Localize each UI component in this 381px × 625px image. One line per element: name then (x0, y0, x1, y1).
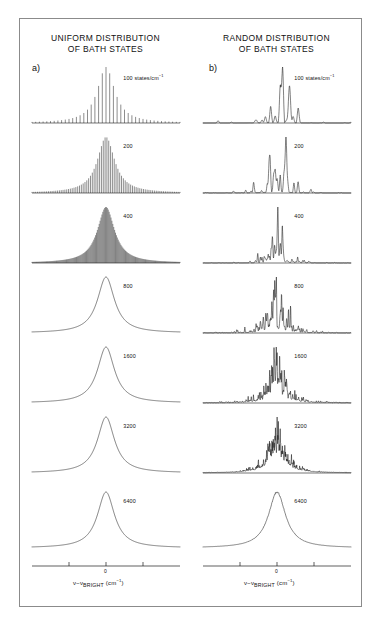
density-label: 800 (123, 283, 132, 289)
axis-caption-unit: (cm (277, 580, 288, 586)
figure-column-uniform: UNIFORM DISTRIBUTION OF BATH STATES a) 1… (20, 19, 191, 606)
axis-caption-sub: BRIGHT (83, 582, 104, 588)
figure-column-random: RANDOM DISTRIBUTION OF BATH STATES b) 10… (191, 19, 362, 606)
density-value: 6400 (123, 498, 136, 504)
axis-caption-uniform: ν−νBRIGHT (cm−1) (73, 578, 124, 588)
density-value: 400 (123, 213, 132, 219)
density-value: 400 (294, 213, 303, 219)
axis-caption-unit-close: ) (122, 580, 124, 586)
density-units: states/cm (133, 75, 159, 81)
axis-caption-unit-close: ) (293, 580, 295, 586)
density-value: 800 (123, 283, 132, 289)
density-label: 200 (123, 143, 132, 149)
axis-caption-sub: BRIGHT (254, 582, 275, 588)
plot-stack-uniform (20, 19, 191, 608)
density-value: 800 (294, 283, 303, 289)
spectra-svg-random (191, 19, 362, 608)
density-label: 6400 (294, 498, 307, 504)
density-label: 100 states/cm−1 (123, 73, 163, 81)
density-label: 400 (123, 213, 132, 219)
density-label: 6400 (123, 498, 136, 504)
density-label: 800 (294, 283, 303, 289)
density-label: 100 states/cm−1 (294, 73, 334, 81)
spectra-svg-uniform (20, 19, 191, 608)
density-label: 1600 (123, 353, 136, 359)
density-value: 100 (294, 75, 303, 81)
density-value: 200 (123, 143, 132, 149)
plot-stack-random (191, 19, 362, 608)
density-value: 1600 (123, 353, 136, 359)
density-value: 100 (123, 75, 132, 81)
density-value: 6400 (294, 498, 307, 504)
density-units-exponent: −1 (330, 73, 335, 78)
density-label: 400 (294, 213, 303, 219)
axis-caption-main: ν−ν (244, 580, 254, 586)
figure-frame: UNIFORM DISTRIBUTION OF BATH STATES a) 1… (19, 18, 362, 607)
density-value: 200 (294, 143, 303, 149)
density-label: 3200 (294, 423, 307, 429)
density-value: 1600 (294, 353, 307, 359)
axis-caption-unit: (cm (106, 580, 117, 586)
density-label: 1600 (294, 353, 307, 359)
axis-caption-main: ν−ν (73, 580, 83, 586)
density-units-exponent: −1 (159, 73, 164, 78)
density-label: 200 (294, 143, 303, 149)
axis-zero-label-uniform: 0 (104, 568, 107, 574)
density-value: 3200 (294, 423, 307, 429)
density-units: states/cm (304, 75, 330, 81)
axis-caption-random: ν−νBRIGHT (cm−1) (244, 578, 295, 588)
density-label: 3200 (123, 423, 136, 429)
density-value: 3200 (123, 423, 136, 429)
axis-zero-label-random: 0 (275, 568, 278, 574)
